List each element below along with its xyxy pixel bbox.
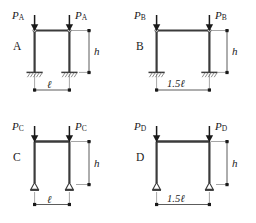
left-load-arrow — [31, 126, 38, 142]
height-dimension — [211, 29, 229, 74]
frame-diagram-d: PD PD D h 1.5ℓ — [128, 111, 256, 222]
height-dimension-label: h — [94, 46, 100, 57]
frame-letter-label: A — [13, 41, 21, 53]
span-dimension-label: ℓ — [47, 80, 51, 91]
frame-letter-label: B — [136, 41, 144, 53]
left-load-label: PC — [12, 121, 24, 133]
frame-diagram-b: PB PB B h 1.5ℓ — [128, 0, 256, 111]
height-dimension-label: h — [232, 46, 238, 57]
right-pinned-support — [205, 183, 214, 191]
right-load-arrow — [66, 126, 73, 142]
height-dimension-label: h — [232, 158, 238, 169]
right-load-label: PD — [215, 121, 227, 133]
height-dimension — [71, 140, 91, 186]
left-load-arrow — [31, 15, 38, 31]
frame-diagram-a: PA PA A h ℓ — [0, 0, 128, 111]
right-load-label: PA — [75, 10, 87, 22]
height-dimension — [71, 29, 91, 74]
height-dimension-label: h — [94, 158, 100, 169]
left-load-label: PA — [12, 10, 24, 22]
right-load-arrow — [206, 15, 213, 31]
span-dimension-label: 1.5ℓ — [167, 194, 185, 205]
frames-figure: PA PA A h ℓ — [0, 0, 256, 223]
right-pinned-support — [65, 183, 74, 191]
left-pinned-support — [30, 183, 39, 191]
right-load-label: PC — [75, 121, 87, 133]
left-pinned-support — [152, 183, 161, 191]
left-load-arrow — [153, 15, 160, 31]
frame-letter-label: D — [136, 152, 144, 164]
frame-letter-label: C — [13, 152, 21, 164]
right-load-arrow — [206, 126, 213, 142]
left-load-arrow — [153, 126, 160, 142]
right-load-arrow — [66, 15, 73, 31]
span-dimension-label: ℓ — [47, 195, 51, 206]
left-load-label: PB — [134, 10, 146, 22]
right-load-label: PB — [215, 10, 227, 22]
span-dimension-label: 1.5ℓ — [167, 79, 185, 90]
span-dimension — [33, 192, 71, 206]
left-load-label: PD — [134, 121, 146, 133]
frame-diagram-c: PC PC C h ℓ — [0, 111, 128, 222]
height-dimension — [211, 140, 229, 186]
